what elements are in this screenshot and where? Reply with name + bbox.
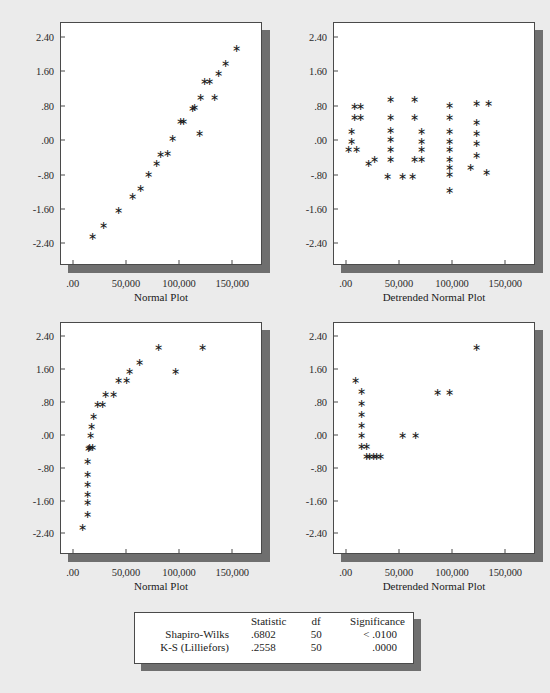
data-point-marker: ∗ (410, 94, 419, 105)
x-axis-tick-mark (125, 549, 126, 554)
data-point-marker: ∗ (84, 443, 93, 454)
plot-area: ∗∗∗∗∗∗∗∗∗∗∗∗∗∗∗∗∗∗∗∗∗∗∗∗ (60, 322, 262, 554)
data-point-marker: ∗ (445, 100, 454, 111)
y-axis-tick-label: -2.40 (281, 238, 327, 249)
y-axis-tick-mark (333, 434, 338, 435)
data-point-marker: ∗ (445, 144, 454, 155)
data-point-marker: ∗ (445, 126, 454, 137)
data-point-marker: ∗ (370, 154, 379, 165)
data-point-marker: ∗ (445, 136, 454, 147)
x-axis-tick-label: .00 (339, 278, 352, 289)
y-axis-tick-label: .80 (8, 100, 54, 111)
data-point-marker: ∗ (386, 112, 395, 123)
y-axis-tick-mark (333, 402, 338, 403)
statistic-cell: .6802 (239, 628, 304, 641)
x-axis-tick-label: 150,000 (216, 278, 249, 289)
data-point-marker: ∗ (88, 442, 97, 453)
data-point-marker: ∗ (176, 116, 185, 127)
x-axis-tick-mark (505, 260, 506, 265)
y-axis-tick-mark (333, 500, 338, 501)
statistic-cell: .2558 (239, 641, 304, 654)
data-point-marker: ∗ (144, 169, 153, 180)
data-point-marker: ∗ (350, 112, 359, 123)
x-axis-tick-mark (179, 549, 180, 554)
y-axis-tick-label: -.80 (281, 169, 327, 180)
data-point-marker: ∗ (357, 398, 366, 409)
data-point-marker: ∗ (168, 133, 177, 144)
x-axis-tick-label: 100,000 (435, 567, 468, 578)
x-axis-tick-mark (345, 549, 346, 554)
data-point-marker: ∗ (482, 167, 491, 178)
y-axis-tick-mark (333, 369, 338, 370)
y-axis-tick-label: -1.60 (8, 204, 54, 215)
table-header-row: Statistic df Significance (135, 613, 413, 628)
column-header-significance: Significance (328, 613, 413, 628)
y-axis-tick-mark (60, 533, 65, 534)
y-axis-tick-mark (333, 243, 338, 244)
data-point-marker: ∗ (410, 154, 419, 165)
stats-table: Statistic df Significance Shapiro-Wilks.… (135, 613, 413, 654)
data-points-layer: ∗∗∗∗∗∗∗∗∗∗∗∗∗∗∗∗∗∗∗∗∗∗∗∗∗∗∗∗∗∗∗∗∗∗∗∗∗∗∗∗… (334, 23, 534, 264)
x-axis-tick-label: 100,000 (162, 278, 195, 289)
y-axis-tick-mark (333, 71, 338, 72)
y-axis-tick-mark (333, 336, 338, 337)
y-axis-tick-label: -1.60 (8, 495, 54, 506)
data-point-marker: ∗ (198, 342, 207, 353)
data-point-marker: ∗ (364, 158, 373, 169)
data-point-marker: ∗ (445, 154, 454, 165)
data-point-marker: ∗ (347, 136, 356, 147)
plot-panel-detrended-normal-plot-bottom-right: ∗∗∗∗∗∗∗∗∗∗∗∗∗∗∗∗∗∗2.401.60.80.00-.80-1.6… (333, 322, 535, 554)
data-point-marker: ∗ (214, 68, 223, 79)
data-point-marker: ∗ (386, 94, 395, 105)
x-axis-tick-label: 50,000 (112, 278, 140, 289)
data-point-marker: ∗ (357, 386, 366, 397)
y-axis-tick-mark (60, 174, 65, 175)
data-point-marker: ∗ (210, 92, 219, 103)
y-axis-tick-label: 2.40 (8, 32, 54, 43)
y-axis-tick-mark (333, 533, 338, 534)
x-axis-tick-label: 150,000 (489, 567, 522, 578)
x-axis-tick-label: 100,000 (435, 278, 468, 289)
x-axis-tick-label: 50,000 (112, 567, 140, 578)
test-name-cell: K-S (Lilliefors) (135, 641, 239, 654)
data-point-marker: ∗ (78, 522, 87, 533)
column-header-blank (135, 613, 239, 628)
x-axis-tick-mark (125, 260, 126, 265)
y-axis-tick-mark (333, 209, 338, 210)
y-axis-tick-mark (60, 336, 65, 337)
data-point-marker: ∗ (445, 169, 454, 180)
data-point-marker: ∗ (350, 101, 359, 112)
data-point-marker: ∗ (472, 117, 481, 128)
y-axis-tick-label: 1.60 (8, 364, 54, 375)
table-row: K-S (Lilliefors).255850.0000 (135, 641, 413, 654)
significance-cell: < .0100 (328, 628, 413, 641)
table-body: Shapiro-Wilks.680250< .0100K-S (Lilliefo… (135, 628, 413, 654)
y-axis-tick-label: 1.60 (281, 364, 327, 375)
y-axis-tick-mark (333, 140, 338, 141)
data-point-marker: ∗ (386, 154, 395, 165)
x-axis-tick-label: .00 (66, 567, 79, 578)
y-axis-tick-label: .80 (281, 397, 327, 408)
data-points-layer: ∗∗∗∗∗∗∗∗∗∗∗∗∗∗∗∗∗∗∗∗∗∗ (61, 23, 261, 264)
y-axis-tick-label: 2.40 (281, 32, 327, 43)
x-axis-tick-label: 50,000 (385, 567, 413, 578)
x-axis-tick-label: 150,000 (216, 567, 249, 578)
y-axis-tick-mark (60, 434, 65, 435)
data-point-marker: ∗ (188, 103, 197, 114)
data-point-marker: ∗ (347, 126, 356, 137)
test-name-cell: Shapiro-Wilks (135, 628, 239, 641)
data-point-marker: ∗ (179, 116, 188, 127)
data-point-marker: ∗ (356, 112, 365, 123)
data-point-marker: ∗ (136, 183, 145, 194)
y-axis-tick-label: -2.40 (8, 528, 54, 539)
y-axis-tick-label: 1.60 (281, 66, 327, 77)
x-axis-tick-mark (232, 260, 233, 265)
y-axis-tick-label: .00 (281, 429, 327, 440)
y-axis-tick-mark (60, 105, 65, 106)
normality-plots-figure: ∗∗∗∗∗∗∗∗∗∗∗∗∗∗∗∗∗∗∗∗∗∗2.401.60.80.00-.80… (0, 0, 550, 693)
data-point-marker: ∗ (357, 430, 366, 441)
data-point-marker: ∗ (114, 205, 123, 216)
data-point-marker: ∗ (83, 469, 92, 480)
x-axis-title: Normal Plot (60, 580, 262, 592)
data-points-layer: ∗∗∗∗∗∗∗∗∗∗∗∗∗∗∗∗∗∗ (334, 323, 534, 553)
